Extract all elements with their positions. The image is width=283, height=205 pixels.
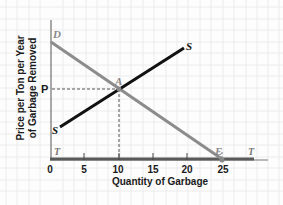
label-t-left: T bbox=[54, 146, 61, 157]
label-a: A bbox=[114, 75, 122, 87]
demand-curve bbox=[51, 42, 222, 159]
x-axis-label: Quantity of Garbage bbox=[112, 176, 209, 187]
label-e: E bbox=[214, 145, 222, 157]
x-tick-15: 15 bbox=[147, 164, 159, 175]
label-s-high: S bbox=[186, 40, 192, 52]
x-tick-5: 5 bbox=[81, 164, 87, 175]
x-tick-20: 20 bbox=[181, 164, 193, 175]
label-t-right: T bbox=[248, 146, 255, 157]
x-tick-0: 0 bbox=[47, 164, 53, 175]
chart-canvas: D S S A E T T P 0 5 10 15 20 25 Quantity… bbox=[0, 0, 283, 205]
point-e bbox=[220, 158, 225, 163]
y-axis-label-line2: of Garbage Removed bbox=[27, 38, 38, 139]
x-tick-10: 10 bbox=[112, 164, 124, 175]
x-tick-25: 25 bbox=[217, 164, 229, 175]
y-tick-p: P bbox=[41, 83, 48, 95]
y-axis-label-line1: Price per Ton per Year bbox=[15, 35, 26, 140]
label-d: D bbox=[52, 28, 61, 40]
chart-figure: D S S A E T T P 0 5 10 15 20 25 Quantity… bbox=[0, 0, 283, 205]
y-axis-label: Price per Ton per Year of Garbage Remove… bbox=[15, 35, 38, 140]
label-s-low: S bbox=[52, 124, 58, 136]
point-a bbox=[117, 87, 122, 92]
